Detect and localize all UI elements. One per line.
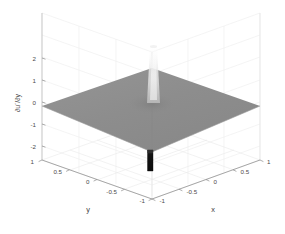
z-tick-label: -1 (30, 121, 36, 128)
x-axis-tick-labels: -1 -0.5 0 0.5 1 (160, 158, 272, 204)
positive-spike (147, 45, 160, 103)
y-axis-label: y (86, 205, 90, 214)
z-tick-label: 1 (33, 77, 37, 84)
negative-spike-top (148, 150, 154, 153)
y-tick-label: 1 (31, 158, 35, 165)
y-tick-label: -1 (139, 197, 145, 204)
x-tick-label: -1 (160, 197, 166, 204)
x-tick-label: -0.5 (187, 188, 198, 195)
figure-caption (2, 225, 283, 234)
y-axis-tick-labels: 1 0.5 0 -0.5 -1 (31, 158, 146, 204)
z-tick-label: 0 (33, 99, 37, 106)
z-axis-label: ∂u´/∂y (14, 93, 22, 112)
x-tick-label: 0.5 (241, 168, 250, 175)
x-axis-label: x (211, 205, 215, 214)
surface-plot-axes: 2 1 0 -1 -2 ∂u´/∂y 1 0.5 0 -0.5 - (0, 0, 285, 234)
y-tick-label: 0.5 (53, 168, 62, 175)
x-tick-label: 0 (214, 178, 218, 185)
y-tick-label: -0.5 (106, 188, 117, 195)
figure-panel: 2 1 0 -1 -2 ∂u´/∂y 1 0.5 0 -0.5 - (0, 0, 285, 234)
z-axis-tick-labels: 2 1 0 -1 -2 (30, 55, 36, 150)
positive-spike-cap (150, 45, 157, 48)
x-tick-label: 1 (267, 158, 271, 165)
y-tick-label: 0 (86, 178, 90, 185)
negative-spike-body (148, 150, 154, 171)
negative-spike (148, 150, 154, 171)
z-tick-label: -2 (30, 143, 36, 150)
z-tick-label: 2 (33, 55, 37, 62)
z-axis-ticks (42, 58, 46, 147)
plot-canvas: 2 1 0 -1 -2 ∂u´/∂y 1 0.5 0 -0.5 - (0, 0, 285, 234)
